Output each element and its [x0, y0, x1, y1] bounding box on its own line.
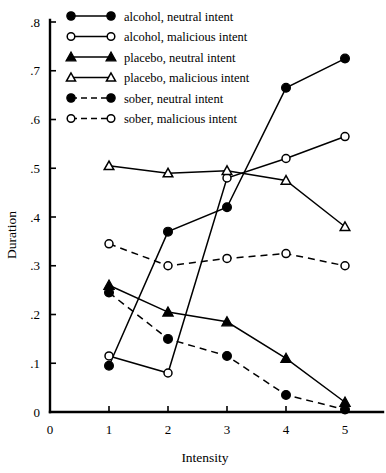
- x-tick-label: 3: [224, 422, 231, 437]
- filled-circle-marker: [105, 361, 114, 370]
- filled-circle-marker: [107, 94, 115, 102]
- y-tick-label: 0: [34, 405, 41, 420]
- filled-circle-marker: [164, 334, 173, 343]
- y-tick-label: .8: [30, 15, 40, 30]
- y-tick-label: .7: [30, 63, 40, 78]
- legend-item-1: alcohol, malicious intent: [67, 30, 248, 44]
- y-tick-label: .5: [30, 161, 40, 176]
- open-circle-marker: [223, 254, 231, 262]
- legend-label: alcohol, malicious intent: [124, 30, 248, 44]
- open-circle-marker: [105, 240, 113, 248]
- filled-circle-marker: [341, 405, 350, 414]
- y-tick-label: .2: [30, 307, 40, 322]
- y-tick-label: .4: [30, 210, 40, 225]
- y-tick-label: .1: [30, 356, 40, 371]
- legend-item-5: sober, malicious intent: [67, 112, 237, 126]
- legend-label: placebo, malicious intent: [124, 71, 250, 85]
- filled-circle-marker: [282, 391, 291, 400]
- y-tick-labels: .8.7.6.5.4.3.2.10: [30, 15, 40, 420]
- open-circle-marker: [67, 33, 75, 41]
- legend-item-4: sober, neutral intent: [67, 92, 224, 106]
- series-line: [109, 285, 345, 402]
- filled-circle-marker: [107, 12, 115, 20]
- filled-circle-marker: [67, 12, 75, 20]
- chart-legend: alcohol, neutral intentalcohol, maliciou…: [66, 10, 250, 127]
- data-series-group: [104, 54, 350, 414]
- filled-circle-marker: [164, 227, 173, 236]
- x-tick-label: 4: [283, 422, 290, 437]
- series-2: [104, 280, 350, 406]
- filled-triangle-marker: [163, 307, 173, 316]
- legend-label: sober, malicious intent: [124, 112, 238, 126]
- open-circle-marker: [341, 133, 349, 141]
- filled-circle-marker: [282, 83, 291, 92]
- filled-circle-marker: [341, 54, 350, 63]
- open-circle-marker: [105, 352, 113, 360]
- y-axis-title: Duration: [4, 211, 19, 259]
- filled-circle-marker: [105, 288, 114, 297]
- chart-figure: .8.7.6.5.4.3.2.10 012345 Duration Intens…: [0, 0, 386, 473]
- open-circle-marker: [107, 115, 115, 123]
- legend-item-2: placebo, neutral intent: [66, 51, 236, 65]
- open-circle-marker: [223, 174, 231, 182]
- legend-item-0: alcohol, neutral intent: [67, 10, 234, 24]
- open-circle-marker: [67, 115, 75, 123]
- open-circle-marker: [282, 155, 290, 163]
- x-tick-label: 0: [47, 422, 54, 437]
- x-tick-label: 2: [165, 422, 172, 437]
- legend-label: alcohol, neutral intent: [124, 10, 234, 24]
- open-circle-marker: [164, 369, 172, 377]
- y-tick-label: .6: [30, 112, 40, 127]
- legend-label: placebo, neutral intent: [124, 51, 236, 65]
- series-5: [105, 240, 349, 270]
- open-circle-marker: [164, 262, 172, 270]
- filled-circle-marker: [223, 203, 232, 212]
- open-circle-marker: [282, 250, 290, 258]
- filled-circle-marker: [67, 94, 75, 102]
- legend-item-3: placebo, malicious intent: [66, 71, 249, 85]
- open-triangle-marker: [104, 161, 114, 170]
- series-3: [104, 161, 350, 230]
- y-tick-label: .3: [30, 258, 40, 273]
- x-tick-label: 5: [342, 422, 349, 437]
- filled-triangle-marker: [281, 353, 291, 362]
- filled-circle-marker: [223, 352, 232, 361]
- series-4: [105, 288, 350, 414]
- x-axis-title: Intensity: [181, 450, 228, 465]
- x-tick-labels: 012345: [47, 422, 349, 437]
- open-circle-marker: [341, 262, 349, 270]
- legend-label: sober, neutral intent: [124, 92, 224, 106]
- x-tick-label: 1: [106, 422, 113, 437]
- line-chart: .8.7.6.5.4.3.2.10 012345 Duration Intens…: [0, 0, 386, 473]
- open-circle-marker: [107, 33, 115, 41]
